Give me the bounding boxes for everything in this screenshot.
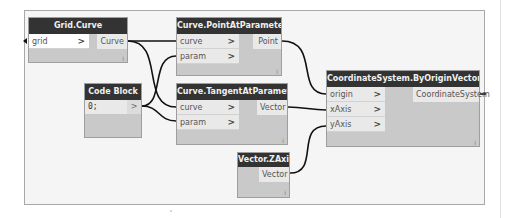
node-title: Vector.ZAxis [238,153,289,167]
canvas-marker [170,210,172,212]
info-icon: i [122,55,124,62]
node-title: Grid.Curve [29,18,127,34]
port-curve-out[interactable]: Curve [97,34,127,49]
node-title: CoordinateSystem.ByOriginVectors [327,71,479,87]
port-curve[interactable]: curve > [177,100,239,115]
node-point-at-parameter[interactable]: Curve.PointAtParameter curve > param > P… [176,17,282,76]
port-xaxis[interactable]: xAxis > [327,102,385,117]
port-grid[interactable]: grid > [29,34,89,49]
chevron-right-icon: > [227,49,235,64]
info-icon: i [276,68,278,75]
info-icon: i [284,189,286,196]
input-lead-icon [23,38,27,44]
port-label: param [180,118,206,127]
port-origin[interactable]: origin > [327,87,385,102]
chevron-right-icon: > [373,102,381,117]
port-yaxis[interactable]: yAxis > [327,117,385,132]
panel-divider [500,0,501,218]
port-param[interactable]: param > [177,115,239,130]
port-label: param [180,52,206,61]
port-coordinatesystem-out[interactable]: CoordinateSystem [413,87,479,102]
chevron-right-icon: > [373,117,381,132]
port-label: xAxis [330,105,351,114]
port-label: yAxis [330,120,351,129]
node-tangent-at-parameter[interactable]: Curve.TangentAtParameter curve > param >… [176,83,288,145]
node-coordinate-system-by-origin-vectors[interactable]: CoordinateSystem.ByOriginVectors origin … [326,70,480,147]
port-label: curve [180,37,202,46]
info-icon: i [282,137,284,144]
port-vector-out[interactable]: Vector [257,100,287,115]
chevron-right-icon: > [227,115,235,130]
code-text: 0; [88,102,98,111]
info-icon: i [474,139,476,146]
code-editor[interactable]: 0; > [85,100,141,114]
node-title: Code Block [85,84,141,100]
port-label: origin [330,90,353,99]
node-grid-curve[interactable]: Grid.Curve grid > Curve i [28,17,128,63]
port-code-out[interactable]: > [127,100,141,114]
node-title: Curve.TangentAtParameter [177,84,287,100]
node-vector-zaxis[interactable]: Vector.ZAxis Vector i [237,152,290,198]
port-param[interactable]: param > [177,49,239,64]
port-label: grid [32,37,48,46]
port-curve[interactable]: curve > [177,34,239,49]
port-vector-out[interactable]: Vector [259,167,289,182]
chevron-right-icon: > [373,87,381,102]
chevron-right-icon: > [77,34,85,49]
port-label: curve [180,103,202,112]
node-code-block[interactable]: Code Block 0; > [84,83,142,138]
node-title: Curve.PointAtParameter [177,18,281,34]
chevron-right-icon: > [227,34,235,49]
chevron-right-icon: > [227,100,235,115]
port-point-out[interactable]: Point [253,34,281,49]
